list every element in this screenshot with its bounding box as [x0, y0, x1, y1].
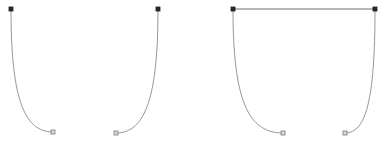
anchor-marker-2[interactable]	[156, 7, 160, 11]
vector-drawing-canvas	[0, 0, 388, 143]
canvas-background	[0, 0, 388, 143]
anchor-marker-1[interactable]	[9, 7, 13, 11]
free-end-marker-1[interactable]	[51, 130, 55, 134]
anchor-marker-4[interactable]	[373, 7, 377, 11]
free-end-marker-3[interactable]	[281, 131, 285, 135]
curve-diagram-svg	[0, 0, 388, 143]
anchor-marker-3[interactable]	[231, 7, 235, 11]
free-end-marker-2[interactable]	[114, 131, 118, 135]
free-end-marker-4[interactable]	[343, 131, 347, 135]
